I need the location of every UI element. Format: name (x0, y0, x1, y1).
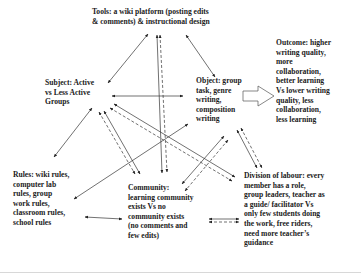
edge-object-community-solid (182, 136, 224, 184)
edge-tools-object (186, 35, 215, 77)
outcome-line-6: Vs lower writing (276, 86, 331, 96)
subject-line-2: vs Less Active (45, 88, 94, 98)
division-line-2: member has a role, (244, 181, 325, 191)
object-line-1: Object: group (196, 76, 242, 86)
subject-line-1: Subject: Active (45, 78, 94, 88)
outcome-line-9: less learning (276, 115, 331, 125)
edge-subject-community-dashed (99, 112, 135, 174)
node-division-of-labour: Division of labour: every member has a r… (244, 171, 325, 248)
edge-object-division-dashed (241, 128, 262, 168)
node-rules: Rules: wiki rules, computer lab rules, g… (13, 170, 69, 228)
edge-subject-rules (54, 108, 92, 157)
edge-rules-community (85, 217, 122, 219)
object-line-5: writing (196, 114, 242, 124)
node-object: Object: group task, genre writing, compo… (196, 76, 242, 124)
tools-line-2: & comments) & instructional design (92, 17, 210, 27)
subject-line-3: Groups (45, 97, 94, 107)
outcome-line-7: quality, less (276, 96, 331, 106)
community-line-6: few edits) (128, 231, 194, 241)
node-tools: Tools: a wiki platform (posting edits & … (92, 7, 210, 26)
rules-line-4: work rules, (13, 199, 69, 209)
node-outcome: Outcome: higher writing quality, more co… (276, 38, 331, 124)
tools-line-1: Tools: a wiki platform (posting edits (92, 7, 210, 17)
edge-subject-community-solid (104, 111, 140, 174)
outcome-line-3: more (276, 57, 331, 67)
rules-line-5: classroom rules, (13, 208, 69, 218)
outcome-line-4: collaboration, (276, 67, 331, 77)
community-line-5: (no comments and (128, 221, 194, 231)
division-line-5: only few students doing (244, 209, 325, 219)
outcome-line-2: writing quality, (276, 48, 331, 58)
outcome-line-5: better learning (276, 76, 331, 86)
object-line-4: composition (196, 105, 242, 115)
division-line-8: guidance (244, 238, 325, 248)
outcome-line-8: collaboration, (276, 105, 331, 115)
rules-line-6: school rules (13, 218, 69, 228)
division-line-7: need more teacher’s (244, 229, 325, 239)
division-line-6: the work, free riders, (244, 219, 325, 229)
bottom-divider (0, 272, 361, 273)
object-line-2: task, genre (196, 86, 242, 96)
division-line-1: Division of labour: every (244, 171, 325, 181)
rules-line-3: rules, group (13, 189, 69, 199)
node-community: Community: learning community exists Vs … (128, 183, 194, 241)
rules-line-2: computer lab (13, 180, 69, 190)
community-line-2: learning community (128, 193, 194, 203)
edge-object-division-solid (237, 130, 257, 168)
division-line-4: a guide/ facilitator Vs (244, 200, 325, 210)
rules-line-1: Rules: wiki rules, (13, 170, 69, 180)
community-line-4: community exists (128, 212, 194, 222)
node-subject: Subject: Active vs Less Active Groups (45, 78, 94, 107)
object-line-3: writing, (196, 95, 242, 105)
edge-tools-subject (108, 34, 148, 83)
community-line-3: exists Vs no (128, 202, 194, 212)
block-arrow-icon (243, 86, 274, 106)
community-line-1: Community: (128, 183, 194, 193)
division-line-3: group leaders, teacher as (244, 190, 325, 200)
outcome-line-1: Outcome: higher (276, 38, 331, 48)
